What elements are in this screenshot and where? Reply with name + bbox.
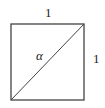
- square-diagram: [0, 0, 105, 108]
- top-side-length-label: 1: [45, 6, 52, 19]
- diagonal-line: [11, 24, 84, 100]
- right-side-length-label: 1: [93, 52, 100, 65]
- angle-alpha-label: α: [36, 49, 43, 62]
